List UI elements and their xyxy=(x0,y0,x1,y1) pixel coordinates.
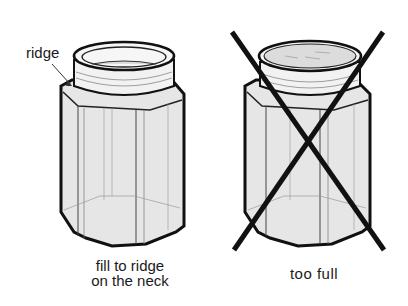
caption-correct-line1: fill to ridge xyxy=(70,258,190,273)
ridge-leader-line xyxy=(52,64,70,84)
ridge-label: ridge xyxy=(26,45,59,60)
jar-incorrect xyxy=(232,32,384,250)
caption-incorrect: too full xyxy=(254,266,374,281)
jar-rim xyxy=(74,42,174,70)
diagram-canvas xyxy=(0,0,408,306)
caption-correct-line2: on the neck xyxy=(70,273,190,288)
jar-correct xyxy=(52,42,184,246)
